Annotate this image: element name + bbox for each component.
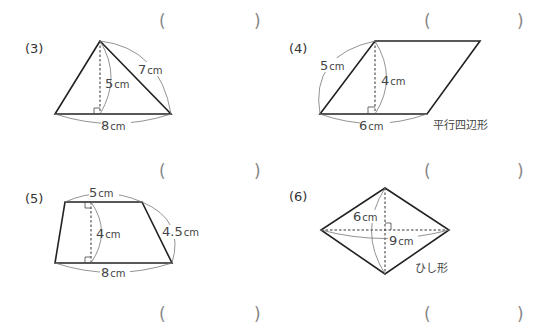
height-label: 5 xyxy=(105,76,113,91)
svg-text:4.5cm: 4.5cm xyxy=(162,224,199,239)
rhombus-figure: 6cm 9cm ひし形 xyxy=(321,188,449,275)
trapezoid-figure: 5cm 4cm 4.5cm 8cm xyxy=(55,185,203,280)
svg-text:6cm: 6cm xyxy=(353,209,378,224)
svg-text:5cm: 5cm xyxy=(105,76,130,91)
svg-text:4cm: 4cm xyxy=(381,73,406,88)
base-label: 8 xyxy=(101,118,109,133)
svg-text:5cm: 5cm xyxy=(89,185,114,200)
svg-text:7cm: 7cm xyxy=(138,62,163,77)
side-label: 5 xyxy=(320,58,328,73)
side-label: 4.5 xyxy=(162,224,183,239)
top-base-label: 5 xyxy=(89,185,97,200)
svg-text:4cm: 4cm xyxy=(96,226,121,241)
side-label: 7 xyxy=(138,62,146,77)
figures-canvas: 5cm 7cm 8cm 5cm 4cm 6cm 平行四辺形 5cm 4cm 4.… xyxy=(0,0,544,328)
height-label: 4 xyxy=(381,73,389,88)
height-label: 4 xyxy=(96,226,104,241)
bottom-base-label: 8 xyxy=(101,265,109,280)
shape-caption: ひし形 xyxy=(415,262,448,275)
parallelogram-figure: 5cm 4cm 6cm 平行四辺形 xyxy=(319,41,488,133)
svg-text:6cm: 6cm xyxy=(359,118,384,133)
triangle-figure: 5cm 7cm 8cm xyxy=(55,41,171,133)
svg-text:5cm: 5cm xyxy=(320,58,345,73)
svg-text:9cm: 9cm xyxy=(389,233,414,248)
horizontal-diagonal-label: 9 xyxy=(389,233,397,248)
vertical-diagonal-label: 6 xyxy=(353,209,361,224)
svg-text:8cm: 8cm xyxy=(101,265,126,280)
shape-caption: 平行四辺形 xyxy=(433,119,488,132)
base-label: 6 xyxy=(359,118,367,133)
svg-text:8cm: 8cm xyxy=(101,118,126,133)
